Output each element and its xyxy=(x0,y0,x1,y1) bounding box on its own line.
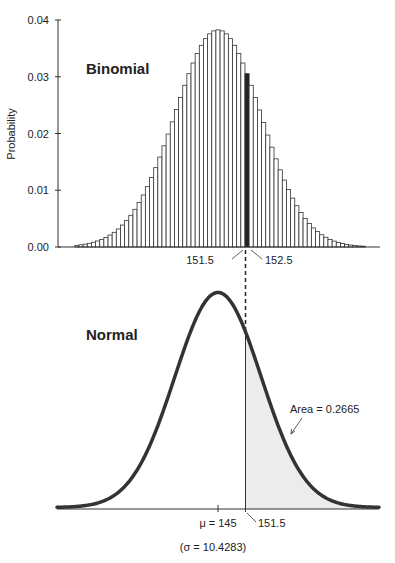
upper-bound-arrow xyxy=(251,250,262,259)
bar xyxy=(228,39,232,247)
bar xyxy=(96,241,100,247)
bar xyxy=(108,235,112,247)
lower-bound-arrow xyxy=(232,250,243,259)
y-tick-label: 0.03 xyxy=(28,71,49,83)
normal-title: Normal xyxy=(86,326,138,343)
cutoff-label: 151.5 xyxy=(258,517,286,529)
bar xyxy=(303,218,307,247)
sigma-label: (σ = 10.4283) xyxy=(180,541,246,553)
bar xyxy=(120,225,124,247)
bar xyxy=(203,39,207,247)
bar xyxy=(179,97,183,247)
binomial-title: Binomial xyxy=(86,60,149,77)
bar xyxy=(150,178,154,247)
upper-bound-label: 152.5 xyxy=(265,254,293,266)
bar xyxy=(224,34,228,247)
normal-curve xyxy=(57,293,379,508)
bar xyxy=(195,53,199,247)
bar xyxy=(112,232,116,247)
bar xyxy=(249,85,253,247)
bar xyxy=(129,215,133,247)
y-tick-label: 0.02 xyxy=(28,128,49,140)
bar xyxy=(141,195,145,247)
bar xyxy=(166,134,170,247)
bar xyxy=(311,228,315,247)
bar xyxy=(104,237,108,247)
bar xyxy=(158,157,162,247)
bar xyxy=(241,63,245,247)
y-tick-label: 0.04 xyxy=(28,14,49,26)
bar xyxy=(91,242,95,247)
bar xyxy=(154,168,158,247)
bar xyxy=(183,85,187,247)
highlighted-bar xyxy=(245,74,249,247)
bar xyxy=(336,242,340,247)
bar xyxy=(307,224,311,247)
bar xyxy=(332,241,336,247)
bar xyxy=(270,147,274,247)
bar xyxy=(324,237,328,247)
bar xyxy=(257,110,261,247)
bar xyxy=(295,206,299,247)
bar xyxy=(278,170,282,247)
bar xyxy=(262,123,266,247)
bar xyxy=(299,212,303,247)
y-tick-label: 0.01 xyxy=(28,184,49,196)
bar xyxy=(291,198,295,247)
bar xyxy=(191,63,195,247)
bar xyxy=(125,220,129,247)
y-ticks: 0.000.010.020.030.04 xyxy=(28,14,61,253)
bar xyxy=(100,239,104,247)
bar xyxy=(328,239,332,247)
bar xyxy=(266,135,270,247)
shaded-area xyxy=(245,331,379,509)
bar xyxy=(137,203,141,247)
binomial-panel: 0.000.010.020.030.04 Probability Binomia… xyxy=(5,14,380,266)
bar xyxy=(87,243,91,247)
bar xyxy=(170,122,174,247)
bar xyxy=(212,31,216,247)
bar xyxy=(133,209,137,247)
bar xyxy=(282,180,286,247)
bar xyxy=(116,229,120,247)
bar xyxy=(187,74,191,247)
bar xyxy=(316,232,320,247)
bar xyxy=(216,30,220,247)
figure: 0.000.010.020.030.04 Probability Binomia… xyxy=(0,0,395,563)
bar xyxy=(274,159,278,247)
mean-label: μ = 145 xyxy=(199,517,236,529)
bar xyxy=(208,34,212,247)
bar xyxy=(174,110,178,247)
normal-panel: Normal Area = 0.2665 μ = 145 151.5 (σ = … xyxy=(57,293,379,554)
bar xyxy=(233,45,237,247)
bar xyxy=(162,146,166,247)
y-axis-label: Probability xyxy=(5,108,17,160)
area-label: Area = 0.2665 xyxy=(290,403,359,415)
bar xyxy=(145,187,149,247)
cutoff-arrow xyxy=(247,513,256,522)
bar xyxy=(340,244,344,247)
bar xyxy=(199,45,203,247)
bar xyxy=(220,31,224,247)
area-arrow xyxy=(291,418,302,434)
bar xyxy=(320,235,324,247)
lower-bound-label: 151.5 xyxy=(186,254,214,266)
y-tick-label: 0.00 xyxy=(28,241,49,253)
bar xyxy=(253,97,257,247)
bar xyxy=(237,53,241,247)
bar xyxy=(286,190,290,247)
